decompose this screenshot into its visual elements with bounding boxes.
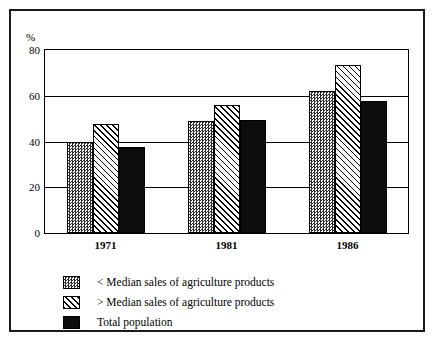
- bar: [214, 105, 240, 233]
- legend-swatch-diagonal-hatch-icon: [63, 296, 80, 309]
- legend-item: < Median sales of agriculture products: [63, 273, 393, 292]
- bar-group: 1986: [287, 50, 408, 233]
- bar: [93, 124, 119, 233]
- y-axis-tick-label: 80: [29, 45, 40, 56]
- y-axis-unit-label: %: [26, 32, 35, 43]
- y-axis-tick-label: 60: [29, 90, 40, 101]
- bar: [188, 121, 214, 233]
- y-axis-tick-label: 0: [35, 228, 41, 239]
- plot-area: 020406080197119811986: [44, 49, 409, 234]
- legend-item: Total population: [63, 313, 393, 332]
- x-axis-tick-label: 1986: [337, 240, 359, 251]
- bar: [361, 101, 387, 233]
- bar: [240, 120, 266, 233]
- legend-item: > Median sales of agriculture products: [63, 293, 393, 312]
- x-axis-tick-label: 1981: [216, 240, 238, 251]
- bar: [119, 147, 145, 233]
- legend-swatch-solid-black-icon: [63, 316, 80, 329]
- legend-swatch-dotted-gray-icon: [63, 276, 80, 289]
- chart-legend: < Median sales of agriculture products >…: [63, 273, 393, 333]
- y-axis-tick-label: 40: [29, 136, 40, 147]
- legend-item-label: Total population: [97, 316, 173, 329]
- bar: [67, 142, 93, 234]
- figure-frame: % 020406080197119811986 < Median sales o…: [9, 9, 425, 332]
- legend-item-label: > Median sales of agriculture products: [97, 296, 274, 309]
- bar: [309, 91, 335, 233]
- y-axis-tick-label: 20: [29, 182, 40, 193]
- x-axis-tick-label: 1971: [95, 240, 117, 251]
- bar-group: 1971: [45, 50, 166, 233]
- bar: [335, 65, 361, 233]
- bar-group: 1981: [166, 50, 287, 233]
- legend-item-label: < Median sales of agriculture products: [97, 276, 274, 289]
